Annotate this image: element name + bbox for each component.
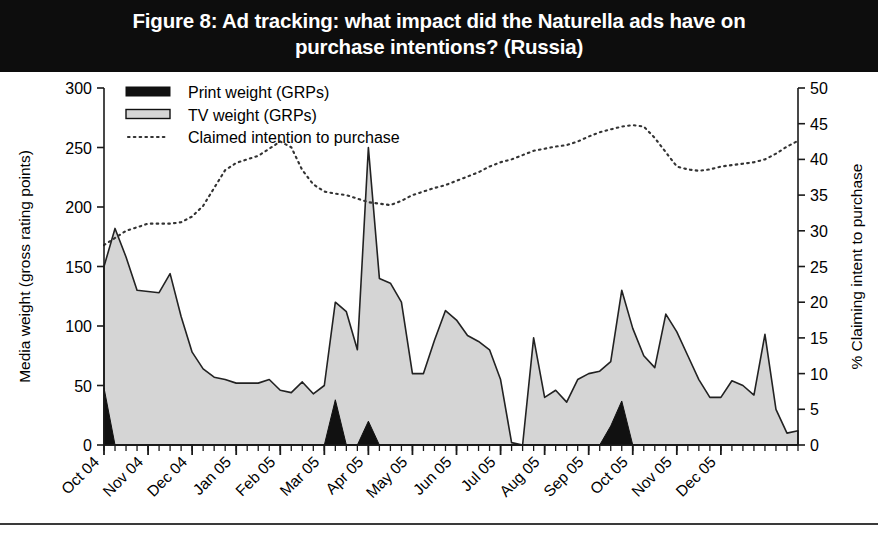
page-title-line-1: Figure 8: Ad tracking: what impact did t… [133, 9, 746, 32]
y-axis-left-tick-label: 150 [65, 259, 92, 276]
x-axis-tick-label: Sep 05 [540, 453, 587, 500]
x-axis-tick-label: Oct 04 [58, 453, 103, 498]
y-axis-right-tick-label: 50 [810, 80, 828, 97]
legend-item: TV weight (GRPs) [126, 107, 317, 124]
x-axis-tick-label: Jul 05 [457, 453, 498, 494]
page-title: Figure 8: Ad tracking: what impact did t… [133, 8, 746, 59]
x-axis-tick-label: Dec 04 [143, 453, 190, 500]
y-axis-right-tick-label: 30 [810, 223, 828, 240]
x-axis-tick-label: Jun 05 [410, 453, 455, 498]
x-axis-tick-label: Feb 05 [232, 453, 278, 499]
x-axis-tick-label: Jan 05 [189, 453, 234, 498]
legend-item: Print weight (GRPs) [126, 84, 329, 101]
legend-label: Claimed intention to purchase [188, 129, 400, 146]
ad-tracking-chart: 05010015020025030005101520253035404550Oc… [0, 72, 878, 512]
x-axis-tick-label: Nov 05 [628, 453, 675, 500]
tv-weight-area [104, 148, 798, 446]
y-axis-left-tick-label: 200 [65, 199, 92, 216]
chart-container: 05010015020025030005101520253035404550Oc… [0, 72, 878, 512]
legend-label: Print weight (GRPs) [188, 84, 329, 101]
page-title-line-2: purchase intentions? (Russia) [295, 35, 583, 58]
y-axis-right-tick-label: 25 [810, 259, 828, 276]
y-axis-right-tick-label: 20 [810, 294, 828, 311]
footer-divider [0, 523, 878, 525]
y-axis-left-title: Media weight (gross rating points) [16, 150, 33, 383]
legend-swatch-print [126, 87, 170, 96]
y-axis-right-tick-label: 40 [810, 151, 828, 168]
y-axis-right-title: % Claiming intent to purchase [848, 164, 865, 370]
figure-title-banner: Figure 8: Ad tracking: what impact did t… [0, 0, 878, 72]
x-axis-tick-label: Aug 05 [496, 453, 543, 500]
legend-swatch-tv [126, 110, 170, 119]
x-axis-tick-label: May 05 [363, 453, 411, 501]
x-axis-tick-label: Apr 05 [322, 453, 366, 497]
x-axis-tick-label: Mar 05 [276, 453, 322, 499]
legend-item: Claimed intention to purchase [128, 129, 400, 146]
y-axis-left-tick-label: 50 [74, 378, 92, 395]
legend-label: TV weight (GRPs) [188, 107, 317, 124]
y-axis-right-tick-label: 0 [810, 437, 819, 454]
y-axis-right-tick-label: 5 [810, 401, 819, 418]
x-axis-tick-label: Dec 05 [672, 453, 719, 500]
y-axis-left-tick-label: 100 [65, 318, 92, 335]
y-axis-right-tick-label: 45 [810, 116, 828, 133]
y-axis-left-tick-label: 300 [65, 80, 92, 97]
y-axis-right-tick-label: 35 [810, 187, 828, 204]
y-axis-right-tick-label: 15 [810, 330, 828, 347]
y-axis-right-tick-label: 10 [810, 366, 828, 383]
y-axis-left-tick-label: 0 [83, 437, 92, 454]
x-axis-tick-label: Nov 04 [99, 453, 146, 500]
y-axis-left-tick-label: 250 [65, 140, 92, 157]
x-axis-tick-label: Oct 05 [587, 453, 631, 497]
